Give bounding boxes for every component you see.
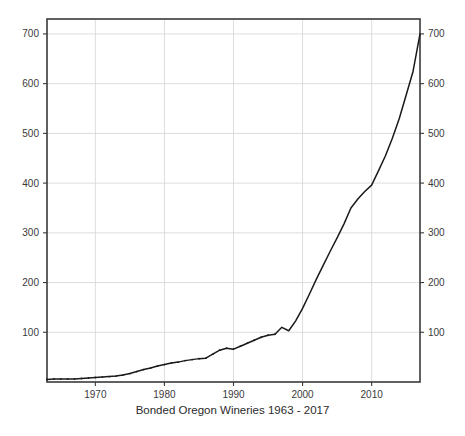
data-point-1975 <box>129 373 131 375</box>
data-point-1988 <box>219 349 221 351</box>
y-axis-label-left-600: 600 <box>22 78 39 89</box>
x-axis-label-1980: 1980 <box>153 389 176 400</box>
data-point-1981 <box>170 362 172 364</box>
y-axis-label-right-100: 100 <box>428 327 445 338</box>
data-point-1985 <box>198 358 200 360</box>
data-point-1973 <box>115 375 117 377</box>
data-point-1989 <box>226 347 228 349</box>
data-point-1964 <box>53 378 55 380</box>
y-axis-label-right-600: 600 <box>428 78 445 89</box>
y-axis-label-right-300: 300 <box>428 227 445 238</box>
data-point-1994 <box>260 336 262 338</box>
data-point-1966 <box>67 378 69 380</box>
data-point-1967 <box>74 378 76 380</box>
chart-background <box>0 0 465 436</box>
data-point-1983 <box>184 360 186 362</box>
y-axis-label-right-700: 700 <box>428 28 445 39</box>
data-point-1963 <box>46 379 48 381</box>
data-point-1990 <box>233 348 235 350</box>
data-point-1978 <box>150 367 152 369</box>
data-point-1976 <box>136 371 138 373</box>
y-axis-label-left-300: 300 <box>22 227 39 238</box>
y-axis-label-right-500: 500 <box>428 128 445 139</box>
data-point-1970 <box>94 377 96 379</box>
data-point-1968 <box>81 378 83 380</box>
data-point-1986 <box>205 357 207 359</box>
y-axis-label-left-100: 100 <box>22 327 39 338</box>
x-axis-label-1990: 1990 <box>222 389 245 400</box>
data-point-1977 <box>143 369 145 371</box>
chart-figure: 100200300400500600700 100200300400500600… <box>0 0 465 436</box>
data-point-1992 <box>246 342 248 344</box>
y-axis-label-left-200: 200 <box>22 277 39 288</box>
data-point-1995 <box>267 334 269 336</box>
data-point-1974 <box>122 374 124 376</box>
data-point-1980 <box>164 364 166 366</box>
data-point-1972 <box>108 376 110 378</box>
x-axis-label-2000: 2000 <box>291 389 314 400</box>
y-axis-label-left-400: 400 <box>22 178 39 189</box>
data-point-1996 <box>274 333 276 335</box>
y-axis-label-right-200: 200 <box>428 277 445 288</box>
data-point-1965 <box>60 378 62 380</box>
line-chart: 100200300400500600700 100200300400500600… <box>0 0 465 436</box>
data-point-1984 <box>191 359 193 361</box>
chart-title: Bonded Oregon Wineries 1963 - 2017 <box>136 404 330 416</box>
data-point-1979 <box>157 365 159 367</box>
y-axis-label-left-500: 500 <box>22 128 39 139</box>
x-axis-label-1970: 1970 <box>84 389 107 400</box>
y-axis-label-right-400: 400 <box>428 178 445 189</box>
data-point-1993 <box>253 339 255 341</box>
data-point-1987 <box>212 353 214 355</box>
y-axis-label-left-700: 700 <box>22 28 39 39</box>
data-point-1969 <box>88 377 90 379</box>
data-point-1991 <box>240 345 242 347</box>
x-axis-label-2010: 2010 <box>361 389 384 400</box>
data-point-1971 <box>101 376 103 378</box>
data-point-1982 <box>177 361 179 363</box>
